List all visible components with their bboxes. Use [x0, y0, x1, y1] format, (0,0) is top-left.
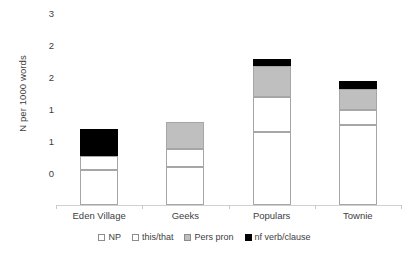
legend-label-np: NP	[108, 232, 121, 242]
bar-townie[interactable]	[339, 14, 377, 205]
legend-swatch-nf-verb-clause-icon	[245, 234, 252, 241]
bar-segment-pers-pron[interactable]	[253, 66, 291, 97]
x-axis-label-townie: Townie	[343, 210, 373, 221]
legend-item-nf-verb-clause[interactable]: nf verb/clause	[245, 232, 311, 242]
legend-label-nf-verb-clause: nf verb/clause	[255, 232, 311, 242]
legend-item-np[interactable]: NP	[98, 232, 121, 242]
legend-item-pers-pron[interactable]: Pers pron	[184, 232, 233, 242]
x-axis-label-populars: Populars	[253, 210, 291, 221]
bar-populars[interactable]	[253, 14, 291, 205]
legend-item-this-that[interactable]: this/that	[132, 232, 174, 242]
legend-swatch-pers-pron-icon	[184, 234, 191, 241]
bar-segment-this-that[interactable]	[80, 156, 118, 170]
y-axis-title: N per 1000 words	[17, 34, 28, 154]
legend-label-this-that: this/that	[142, 232, 174, 242]
bar-geeks[interactable]	[166, 14, 204, 205]
bar-segment-np[interactable]	[80, 170, 118, 205]
y-tick-label: 3	[49, 9, 54, 19]
bar-segment-nf-verb-clause[interactable]	[339, 81, 377, 89]
stacked-bar-chart: N per 1000 words 3 2 2 1 1 0 Eden Villag…	[0, 0, 409, 263]
x-tick-mark	[56, 205, 57, 209]
y-tick-label: 2	[49, 41, 54, 51]
bar-segment-this-that[interactable]	[339, 110, 377, 126]
x-axis-label-geeks: Geeks	[172, 210, 199, 221]
bar-segment-this-that[interactable]	[166, 149, 204, 167]
y-tick-label: 2	[49, 73, 54, 83]
bar-segment-pers-pron[interactable]	[166, 122, 204, 149]
legend-swatch-np-icon	[98, 234, 105, 241]
y-tick-label: 0	[49, 169, 54, 179]
bar-segment-np[interactable]	[166, 167, 204, 205]
bar-eden-village[interactable]	[80, 14, 118, 205]
bar-segment-nf-verb-clause[interactable]	[253, 59, 291, 67]
bar-segment-np[interactable]	[253, 132, 291, 205]
bar-segment-np[interactable]	[339, 125, 377, 205]
chart-legend: NP this/that Pers pron nf verb/clause	[0, 232, 409, 242]
legend-swatch-this-that-icon	[132, 234, 139, 241]
legend-label-pers-pron: Pers pron	[194, 232, 233, 242]
bar-segment-nf-verb-clause[interactable]	[80, 129, 118, 156]
x-axis-label-eden-village: Eden Village	[73, 210, 126, 221]
y-tick-label: 1	[49, 105, 54, 115]
y-tick-label: 1	[49, 137, 54, 147]
x-tick-mark	[401, 205, 402, 209]
bar-segment-this-that[interactable]	[253, 97, 291, 132]
x-tick-mark	[229, 205, 230, 209]
y-axis-tick-labels: 3 2 2 1 1 0	[36, 0, 54, 205]
x-tick-mark	[142, 205, 143, 209]
bar-segment-pers-pron[interactable]	[339, 89, 377, 109]
x-tick-mark	[315, 205, 316, 209]
